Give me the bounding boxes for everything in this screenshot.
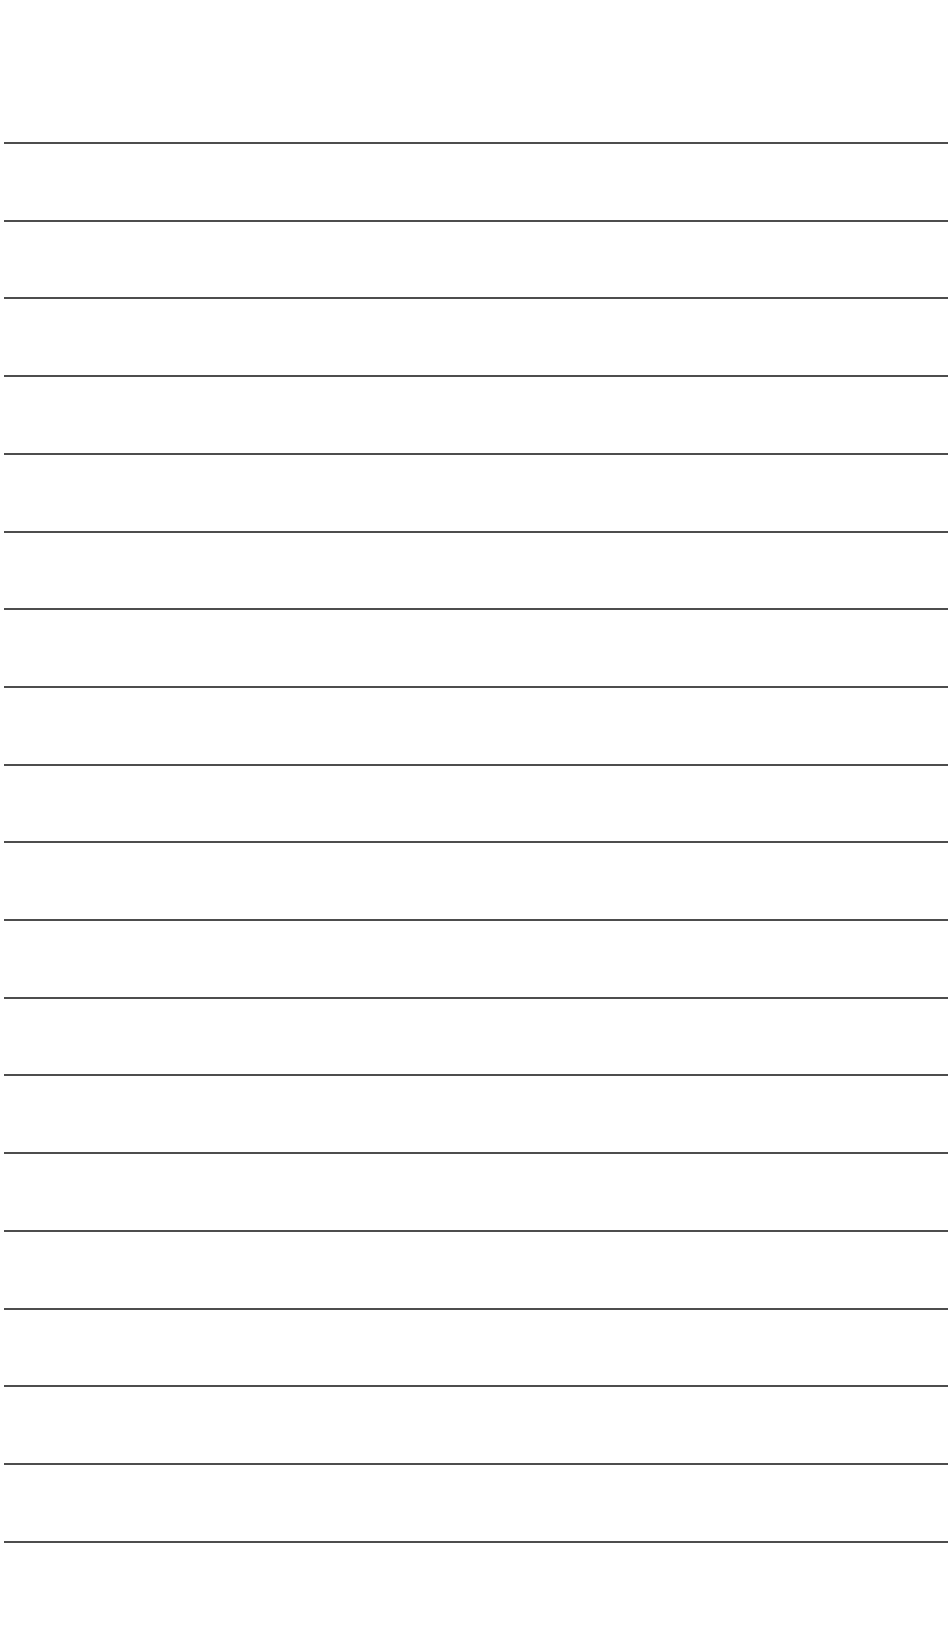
ruled-line	[4, 220, 948, 222]
lined-paper-sheet	[0, 0, 952, 1632]
ruled-line	[4, 142, 948, 144]
ruled-line	[4, 1308, 948, 1310]
ruled-line	[4, 919, 948, 921]
ruled-line	[4, 764, 948, 766]
ruled-line	[4, 1385, 948, 1387]
ruled-line	[4, 841, 948, 843]
ruled-line	[4, 531, 948, 533]
ruled-line	[4, 1074, 948, 1076]
ruled-line	[4, 1463, 948, 1465]
ruled-line	[4, 1230, 948, 1232]
ruled-line	[4, 608, 948, 610]
ruled-line	[4, 1541, 948, 1543]
ruled-line	[4, 375, 948, 377]
ruled-line	[4, 453, 948, 455]
ruled-line	[4, 997, 948, 999]
ruled-line	[4, 686, 948, 688]
ruled-line	[4, 297, 948, 299]
ruled-line	[4, 1152, 948, 1154]
